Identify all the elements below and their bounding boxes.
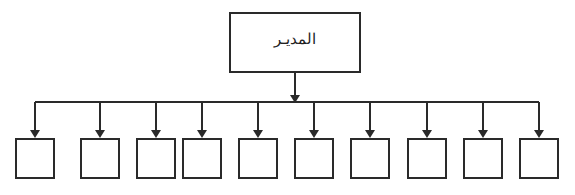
child-box: [183, 139, 221, 178]
child-node: [239, 102, 277, 178]
root-node: المديـر: [230, 13, 360, 72]
child-node: [183, 102, 221, 178]
child-box: [16, 139, 54, 178]
child-arrowhead: [309, 130, 319, 138]
child-arrowhead: [30, 130, 40, 138]
child-arrowhead: [365, 130, 375, 138]
child-arrowhead: [197, 130, 207, 138]
child-arrowhead: [478, 130, 488, 138]
child-arrowhead: [151, 130, 161, 138]
child-box: [81, 139, 119, 178]
child-box: [239, 139, 277, 178]
child-box: [351, 139, 389, 178]
org-chart-diagram: المديـر: [0, 0, 575, 195]
child-arrowhead: [422, 130, 432, 138]
child-arrowhead: [253, 130, 263, 138]
root-connector: [290, 72, 300, 103]
child-node: [464, 102, 502, 178]
child-node: [137, 102, 175, 178]
child-node: [520, 102, 558, 178]
root-label: المديـر: [273, 30, 316, 48]
child-box: [408, 139, 446, 178]
child-arrowhead: [95, 130, 105, 138]
child-node: [16, 102, 54, 178]
child-node: [81, 102, 119, 178]
child-node: [408, 102, 446, 178]
child-node: [351, 102, 389, 178]
child-arrowhead: [534, 130, 544, 138]
child-box: [464, 139, 502, 178]
child-box: [137, 139, 175, 178]
child-box: [295, 139, 333, 178]
child-box: [520, 139, 558, 178]
child-nodes: [16, 102, 558, 178]
child-node: [295, 102, 333, 178]
